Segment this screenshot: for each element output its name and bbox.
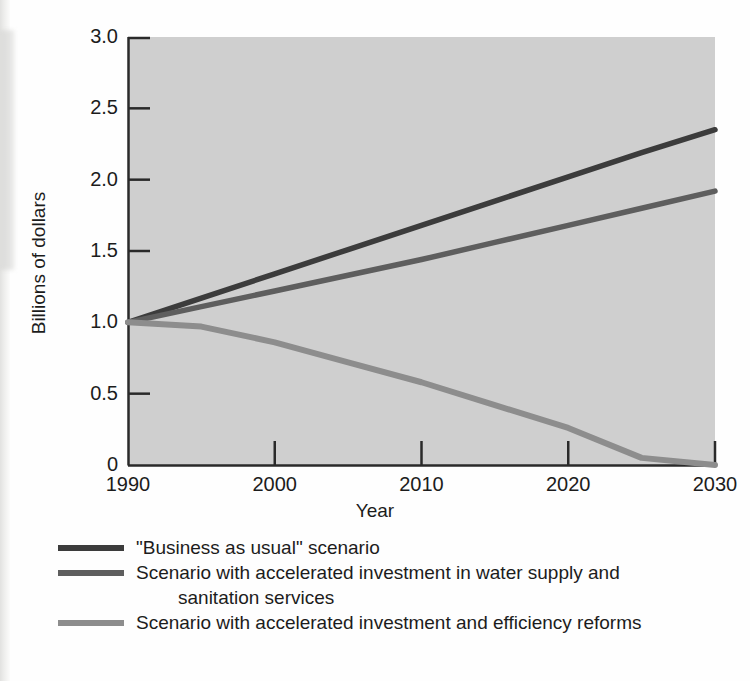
x-axis-tick-label: 2020 — [523, 473, 613, 495]
y-axis-tick-label: 0 — [60, 454, 118, 474]
x-axis-tick-label: 1990 — [83, 473, 173, 495]
chart-legend: "Business as usual" scenarioScenario wit… — [58, 535, 748, 635]
plot-area-background — [128, 37, 715, 465]
legend-color-swatch — [58, 570, 124, 576]
x-axis-tick-label: 2000 — [230, 473, 320, 495]
legend-entry-1[interactable]: "Business as usual" scenario — [58, 535, 748, 560]
legend-entry-3[interactable]: Scenario with accelerated investment and… — [58, 610, 748, 635]
y-axis-tick-labels: 3.02.52.01.51.00.50 — [52, 0, 118, 500]
legend-entry-2[interactable]: Scenario with accelerated investment in … — [58, 560, 748, 610]
y-axis-tick-label: 3.0 — [60, 26, 118, 46]
legend-label: "Business as usual" scenario — [136, 535, 748, 560]
x-axis-tick-label: 2010 — [377, 473, 467, 495]
y-axis-title: Billions of dollars — [28, 163, 50, 363]
y-axis-tick-label: 2.0 — [60, 169, 118, 189]
x-axis-tick-label: 2030 — [670, 473, 750, 495]
legend-label: Scenario with accelerated investment and… — [136, 610, 748, 635]
x-axis-title: Year — [0, 500, 750, 522]
line-chart-figure: 3.02.52.01.51.00.50 19902000201020202030… — [0, 0, 750, 681]
legend-label-continued: sanitation services — [178, 585, 748, 610]
y-axis-tick-label: 0.5 — [60, 383, 118, 403]
y-axis-tick-label: 1.0 — [60, 311, 118, 331]
legend-color-swatch — [58, 545, 124, 551]
legend-color-swatch — [58, 620, 124, 626]
legend-label: Scenario with accelerated investment in … — [136, 560, 748, 585]
y-axis-tick-label: 1.5 — [60, 240, 118, 260]
y-axis-tick-label: 2.5 — [60, 97, 118, 117]
